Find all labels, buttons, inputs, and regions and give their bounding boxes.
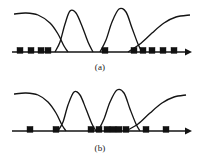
data-marker: [123, 126, 129, 132]
data-marker: [27, 126, 33, 132]
data-marker: [102, 47, 108, 53]
data-marker: [104, 126, 110, 132]
distribution-curve-3: [100, 8, 142, 52]
axis-arrow-head-icon: [185, 128, 192, 135]
panel-b-caption: (b): [0, 143, 200, 154]
data-marker: [110, 126, 116, 132]
distribution-curve-4: [126, 95, 186, 131]
data-marker: [45, 47, 51, 53]
data-marker: [171, 47, 177, 53]
distribution-curve-1: [14, 13, 68, 52]
distribution-curve-3: [98, 89, 140, 131]
axis-arrow-head-icon: [185, 49, 192, 56]
panel-a-plot: [0, 0, 200, 64]
data-marker: [28, 47, 34, 53]
distribution-curve-2: [55, 10, 93, 52]
figure-panel-b: (b): [0, 81, 200, 162]
data-marker: [38, 47, 44, 53]
distribution-curve-4: [128, 15, 190, 52]
data-marker: [116, 126, 122, 132]
figure-root: (a) (b): [0, 0, 200, 162]
panel-b-plot: [0, 81, 200, 145]
data-marker: [163, 126, 169, 132]
figure-panel-a: (a): [0, 0, 200, 81]
data-marker: [143, 126, 149, 132]
data-marker: [149, 47, 155, 53]
distribution-curve-1: [14, 93, 66, 131]
data-marker: [160, 47, 166, 53]
data-marker: [88, 126, 94, 132]
data-marker: [131, 47, 137, 53]
data-marker: [53, 126, 59, 132]
distribution-curve-2: [58, 91, 96, 131]
data-marker: [96, 126, 102, 132]
data-marker: [17, 47, 23, 53]
panel-a-caption: (a): [0, 62, 200, 73]
data-marker: [140, 47, 146, 53]
